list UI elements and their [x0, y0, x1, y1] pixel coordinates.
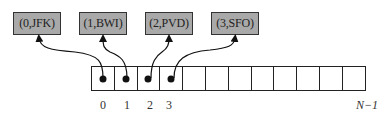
- arrow-3: [174, 38, 235, 78]
- arrow-0: [39, 38, 103, 78]
- index-label-0: 0: [100, 98, 106, 113]
- index-label-1: 1: [124, 98, 130, 113]
- index-label-last: N−1: [356, 98, 378, 113]
- index-label-2: 2: [147, 98, 153, 113]
- index-label-3: 3: [166, 98, 172, 113]
- pointer-arrows: [0, 0, 390, 118]
- arrow-1: [103, 38, 127, 78]
- arrow-2: [151, 38, 169, 78]
